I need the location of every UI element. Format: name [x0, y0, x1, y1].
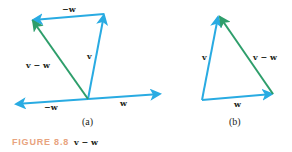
label-neg-w-bottom: −w	[44, 102, 59, 112]
label-w: w	[119, 98, 128, 108]
label-neg-w-top: −w	[62, 4, 77, 14]
label-v-minus-w: v − w	[252, 52, 278, 62]
caption-label: FIGURE 8.8	[12, 137, 69, 147]
sublabel-a: (a)	[82, 116, 93, 128]
label-v: v	[201, 52, 207, 62]
figure-caption: FIGURE 8.8v − w	[12, 137, 98, 147]
label-v-minus-w: v − w	[25, 60, 51, 70]
label-w: w	[233, 99, 242, 109]
caption-text: v − w	[74, 137, 98, 147]
panel-b: v v − w w (b)	[201, 17, 278, 128]
vector-neg-w-top-arrow	[33, 14, 104, 20]
panel-a: −w v v − w −w w (a)	[16, 4, 160, 128]
figure-diagram: −w v v − w −w w (a) v v − w w (b)	[0, 0, 292, 152]
sublabel-b: (b)	[229, 116, 241, 128]
label-v: v	[86, 51, 92, 61]
